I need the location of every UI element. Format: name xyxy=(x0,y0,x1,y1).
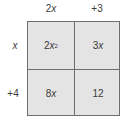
cell-8x: 8x xyxy=(28,70,74,117)
variable: x xyxy=(98,40,103,51)
cell-12: 12 xyxy=(75,70,121,117)
exponent: 2 xyxy=(55,43,58,49)
column-header-2x: 2x xyxy=(40,3,62,14)
row-header-plus4: +4 xyxy=(3,88,23,99)
variable: x xyxy=(51,88,56,99)
row-header-x: x xyxy=(9,40,21,51)
cell-2x-squared: 2x2 xyxy=(28,22,74,69)
variable: x xyxy=(51,3,56,14)
area-model-grid: 2x2 3x 8x 12 xyxy=(27,21,120,116)
cell-3x: 3x xyxy=(75,22,121,69)
column-header-plus3: +3 xyxy=(86,3,108,14)
